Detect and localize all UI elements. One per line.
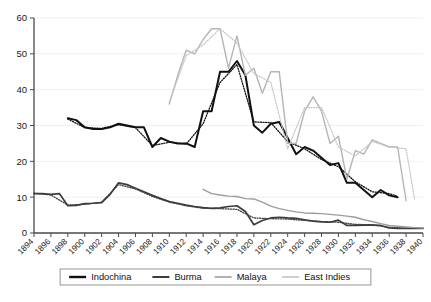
y-tick-label: 0 xyxy=(22,227,27,238)
legend-label-east-indies[interactable]: East Indies xyxy=(304,272,350,282)
x-tick-label: 1902 xyxy=(84,237,104,257)
x-tick-label: 1912 xyxy=(168,237,188,257)
x-tick-label: 1900 xyxy=(67,237,87,257)
x-tick-label: 1910 xyxy=(151,237,171,257)
y-tick-label: 20 xyxy=(16,156,27,167)
x-tick-label: 1908 xyxy=(135,237,155,257)
y-tick-label: 40 xyxy=(16,84,27,95)
x-tick-label: 1920 xyxy=(236,237,256,257)
legend-label-indochina[interactable]: Indochina xyxy=(91,272,132,282)
gridlines xyxy=(34,18,423,197)
x-tick-label: 1940 xyxy=(405,237,425,257)
y-axis-ticks: 0102030405060 xyxy=(16,12,34,238)
legend-label-burma[interactable]: Burma xyxy=(174,272,202,282)
x-tick-label: 1906 xyxy=(118,237,138,257)
x-tick-label: 1928 xyxy=(304,237,324,257)
x-tick-label: 1898 xyxy=(50,237,70,257)
x-tick-label: 1922 xyxy=(253,237,273,257)
data-series xyxy=(34,29,423,229)
x-tick-label: 1916 xyxy=(202,237,222,257)
x-tick-label: 1938 xyxy=(388,237,408,257)
x-tick-label: 1904 xyxy=(101,237,121,257)
chart-legend: IndochinaBurmaMalayaEast Indies xyxy=(60,269,371,285)
series-line-east-indies-trend xyxy=(169,29,414,199)
x-tick-label: 1894 xyxy=(16,237,36,257)
y-tick-label: 50 xyxy=(16,48,27,59)
x-tick-label: 1914 xyxy=(185,237,205,257)
series-line-east-indies xyxy=(169,29,406,201)
legend-label-malaya[interactable]: Malaya xyxy=(237,272,268,282)
x-tick-label: 1934 xyxy=(354,237,374,257)
y-tick-label: 60 xyxy=(16,12,27,23)
x-tick-label: 1896 xyxy=(33,237,53,257)
x-tick-label: 1932 xyxy=(338,237,358,257)
x-tick-label: 1936 xyxy=(371,237,391,257)
x-tick-label: 1918 xyxy=(219,237,239,257)
x-tick-label: 1930 xyxy=(321,237,341,257)
chart-container: 0102030405060 18941896189819001902190419… xyxy=(0,0,431,302)
line-chart: 0102030405060 18941896189819001902190419… xyxy=(0,0,431,302)
y-tick-label: 30 xyxy=(16,120,27,131)
y-tick-label: 10 xyxy=(16,192,27,203)
x-tick-label: 1926 xyxy=(287,237,307,257)
x-axis-ticks: 1894189618981900190219041906190819101912… xyxy=(16,233,425,256)
x-tick-label: 1924 xyxy=(270,237,290,257)
